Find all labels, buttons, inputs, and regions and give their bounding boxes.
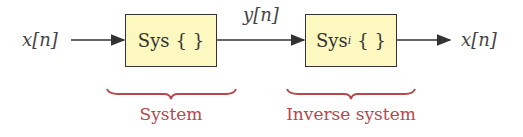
- output-signal-label: x[n]: [461, 29, 497, 50]
- input-signal-label: x[n]: [22, 29, 58, 50]
- inverse-block-subscript: i: [348, 34, 352, 47]
- brace-system-icon: [107, 89, 236, 99]
- inverse-block-braces: { }: [357, 30, 386, 51]
- inverse-system-diagram: x[n] y[n] x[n] Sys { } Sys i { } System …: [0, 0, 523, 137]
- intermediate-signal-label: y[n]: [243, 4, 279, 25]
- inverse-system-caption: Inverse system: [286, 104, 416, 124]
- inverse-block-label: Sys: [316, 30, 348, 51]
- system-block: Sys { }: [125, 14, 217, 67]
- system-block-braces: { }: [176, 30, 205, 51]
- inverse-system-block: Sys i { }: [305, 14, 397, 67]
- brace-inverse-icon: [287, 89, 415, 99]
- system-block-label: Sys: [138, 30, 170, 51]
- system-caption: System: [121, 104, 221, 124]
